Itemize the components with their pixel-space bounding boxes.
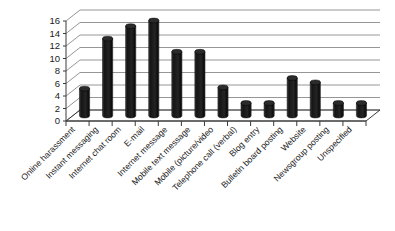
bar (241, 101, 251, 118)
bar (218, 85, 228, 118)
y-tick-label: 14 (49, 28, 60, 39)
bars-group (79, 18, 366, 118)
y-axis-tick-labels: 0246810121416 (49, 15, 66, 126)
y-tick-label: 0 (55, 115, 60, 126)
bar (264, 101, 274, 118)
y-tick-label: 12 (49, 40, 60, 51)
bar (149, 18, 159, 118)
y-tick-label: 16 (49, 15, 60, 26)
y-tick-label: 8 (55, 65, 60, 76)
bar (195, 49, 205, 118)
bar (287, 76, 297, 118)
bar (79, 86, 89, 118)
x-axis-category-labels: Online harassmentInstant messagingIntern… (19, 124, 354, 193)
chart-canvas: 0246810121416 Online harassmentInstant m… (0, 0, 395, 231)
bar (103, 36, 113, 118)
x-axis (66, 121, 366, 126)
bar (356, 101, 366, 118)
bar (126, 24, 136, 118)
y-tick-label: 6 (55, 78, 60, 89)
y-tick-label: 10 (49, 53, 60, 64)
y-tick-label: 2 (55, 103, 60, 114)
y-tick-label: 4 (55, 90, 60, 101)
bar (310, 80, 320, 118)
bar (172, 49, 182, 118)
bar-chart: 0246810121416 Online harassmentInstant m… (0, 0, 395, 231)
bar (333, 101, 343, 118)
